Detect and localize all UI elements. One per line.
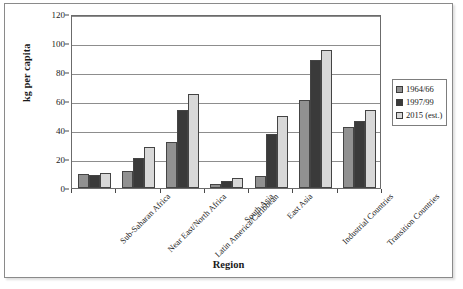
bar-group (116, 16, 160, 188)
bar-group (249, 16, 293, 188)
y-tick-label: 120 (52, 11, 66, 20)
legend-label: 2015 (est.) (406, 111, 442, 120)
bar-group (161, 16, 205, 188)
chart-figure: kg per capita 020406080100120 Sub-Sahara… (4, 3, 453, 278)
bar (133, 158, 144, 188)
y-tick-label: 60 (56, 98, 65, 107)
bar (188, 94, 199, 188)
bar (232, 178, 243, 188)
bar (144, 147, 155, 188)
y-tick-mark (65, 189, 69, 190)
bar (343, 127, 354, 188)
x-tick-label: East Asia (286, 192, 315, 221)
plot-area (71, 15, 381, 189)
x-axis-title: Region (5, 259, 452, 270)
bar (255, 176, 266, 188)
x-tick-label: Sub-Saharan Africa (119, 192, 173, 246)
bar (166, 142, 177, 188)
bar (78, 174, 89, 188)
y-tick-mark (65, 131, 69, 132)
y-axis-tick-labels: 020406080100120 (41, 15, 69, 189)
bar (221, 181, 232, 188)
bar-group (205, 16, 249, 188)
chart-legend: 1964/661997/992015 (est.) (392, 79, 447, 126)
x-tick-label: Transition Countries (385, 192, 441, 248)
bar (266, 134, 277, 188)
y-tick-label: 80 (56, 69, 65, 78)
bars-layer (72, 16, 380, 188)
bar (299, 100, 310, 188)
y-tick-mark (65, 160, 69, 161)
legend-swatch-icon (396, 99, 403, 106)
y-tick-label: 100 (52, 40, 66, 49)
bar (122, 171, 133, 188)
legend-swatch-icon (396, 86, 403, 93)
y-tick-label: 20 (56, 156, 65, 165)
bar (100, 173, 111, 188)
bar-group (293, 16, 337, 188)
bar (89, 175, 100, 188)
bar (277, 116, 288, 189)
bar (354, 121, 365, 188)
y-tick-mark (65, 15, 69, 16)
bar-group (338, 16, 382, 188)
y-tick-label: 40 (56, 127, 65, 136)
legend-label: 1997/99 (406, 98, 434, 107)
y-tick-mark (65, 102, 69, 103)
legend-label: 1964/66 (406, 85, 434, 94)
bar (210, 184, 221, 188)
legend-item: 1964/66 (396, 83, 442, 96)
x-axis-tick-labels: Sub-Saharan AfricaNear East/North Africa… (71, 192, 391, 262)
y-tick-mark (65, 44, 69, 45)
bar (177, 110, 188, 188)
y-axis-title: kg per capita (21, 43, 32, 102)
bar (310, 60, 321, 188)
bar (365, 110, 376, 188)
bar-group (72, 16, 116, 188)
legend-swatch-icon (396, 112, 403, 119)
legend-item: 2015 (est.) (396, 109, 442, 122)
bar (321, 50, 332, 188)
legend-item: 1997/99 (396, 96, 442, 109)
y-tick-mark (65, 73, 69, 74)
